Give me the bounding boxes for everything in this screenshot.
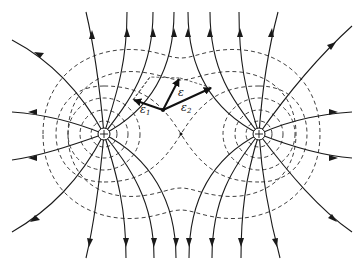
vector-labels: ε ε1 ε2 xyxy=(140,86,192,117)
label-e: ε xyxy=(178,86,184,99)
charge-left xyxy=(98,128,110,140)
charge-right xyxy=(253,128,265,140)
saddle-point xyxy=(180,133,183,136)
label-e2: ε2 xyxy=(181,101,192,115)
field-diagram: ε ε1 ε2 xyxy=(0,0,364,268)
